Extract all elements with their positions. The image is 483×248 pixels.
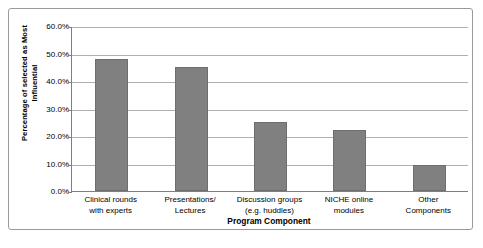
x-axis-tick-label: OtherComponents <box>389 195 468 216</box>
x-axis-title: Program Component <box>71 216 467 226</box>
x-axis-tick-label-line: Lectures <box>150 206 229 217</box>
bar <box>175 67 208 191</box>
x-axis-tick-label-line: NICHE online <box>309 195 388 206</box>
y-axis-tick-label: 20.0% <box>33 133 69 141</box>
bar <box>413 165 446 191</box>
x-axis-tick-label-line: Other <box>389 195 468 206</box>
y-axis-tick-label: 60.0% <box>33 23 69 31</box>
bar <box>95 59 128 191</box>
y-axis-tick-labels: 0.0%10.0%20.0%30.0%40.0%50.0%60.0% <box>33 23 69 193</box>
bar <box>333 130 366 191</box>
x-axis-tick-label-line: modules <box>309 206 388 217</box>
x-axis-tick-label-line: Discussion groups <box>230 195 309 206</box>
x-axis-tick-label: NICHE onlinemodules <box>309 195 388 216</box>
plot-area <box>71 27 468 192</box>
x-axis-tick-label: Presentations/Lectures <box>150 195 229 216</box>
y-axis-tick-label: 50.0% <box>33 51 69 59</box>
y-axis-tick-label: 40.0% <box>33 78 69 86</box>
x-axis-tick-label-line: with experts <box>71 206 150 217</box>
x-axis-tick-label: Discussion groups(e.g. huddles) <box>230 195 309 216</box>
y-axis-tick-label: 30.0% <box>33 106 69 114</box>
y-axis-tick-label: 0.0% <box>33 188 69 196</box>
x-axis-tick-label-line: Presentations/ <box>150 195 229 206</box>
x-axis-tick-label: Clinical roundswith experts <box>71 195 150 216</box>
x-axis-tick-label-line: Clinical rounds <box>71 195 150 206</box>
bar <box>254 122 287 191</box>
bar-series <box>72 27 468 191</box>
y-axis-title-line-1: Percentage of selected as Most <box>20 8 30 158</box>
chart-frame: Percentage of selected as Most Influenti… <box>8 8 473 230</box>
y-axis-tick-mark <box>68 192 72 193</box>
y-axis-tick-label: 10.0% <box>33 161 69 169</box>
x-axis-tick-label-line: (e.g. huddles) <box>230 206 309 217</box>
x-axis-tick-label-line: Components <box>389 206 468 217</box>
